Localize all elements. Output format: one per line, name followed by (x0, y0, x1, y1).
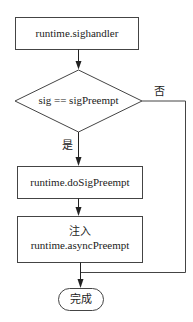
flowchart-canvas (0, 0, 193, 322)
no-label: 否 (152, 85, 166, 98)
yes-label: 是 (60, 139, 74, 152)
inject-label-line1: 注入 (17, 225, 143, 238)
inject-label-line2: runtime.asyncPreempt (17, 239, 143, 252)
end-label: 完成 (58, 293, 104, 306)
decision-label: sig == sigPreempt (15, 94, 142, 107)
sighandler-label: runtime.sighandler (15, 27, 139, 40)
dosigpreempt-label: runtime.doSigPreempt (17, 176, 143, 189)
